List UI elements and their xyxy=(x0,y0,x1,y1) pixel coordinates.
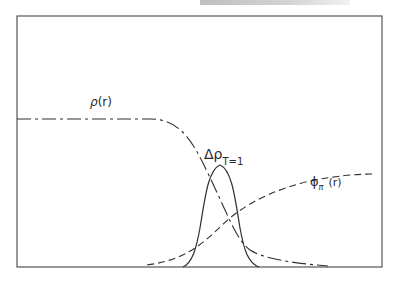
phi-arg: (r) xyxy=(328,176,341,189)
phi-symbol: ϕ xyxy=(310,174,319,189)
rho-label: ρ(r) xyxy=(90,95,112,109)
delta-rho-subscript: T=1 xyxy=(222,156,243,167)
delta-rho-symbol: Δρ xyxy=(204,146,222,162)
phi-subscript: π xyxy=(319,183,324,192)
rho-curve xyxy=(17,119,328,266)
cropped-header-text xyxy=(200,0,350,5)
rho-symbol: ρ xyxy=(90,95,98,109)
phi-pi-label: ϕπ(r) xyxy=(310,174,342,189)
delta-rho-curve xyxy=(183,165,259,267)
figure-canvas xyxy=(0,0,396,281)
rho-arg: (r) xyxy=(98,95,112,109)
delta-rho-label: ΔρT=1 xyxy=(204,146,243,162)
